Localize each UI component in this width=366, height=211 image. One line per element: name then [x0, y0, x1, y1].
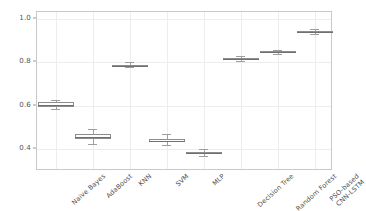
x-axis-tick-label: Naive Bayes: [70, 173, 107, 207]
box-plot-random-forest: [258, 12, 298, 171]
x-axis: Naive BayesAdaBoostKNNSVMMLPDecision Tre…: [0, 170, 342, 210]
cap-lower: [162, 145, 171, 146]
plot-area: [36, 11, 332, 170]
box-plot-naive-bayes: [36, 12, 76, 171]
cap-lower: [88, 144, 97, 145]
y-axis-tick-label: 0.8: [19, 57, 31, 65]
box-plot-svm: [147, 12, 187, 171]
box-plot-adaboost: [73, 12, 113, 171]
median-line: [75, 137, 111, 138]
box-plot-mlp: [184, 12, 224, 171]
box-plot-pso-based-cnn-lstm: [295, 12, 335, 171]
cap-lower: [310, 34, 319, 35]
median-line: [38, 105, 74, 106]
x-axis-tick-label: AdaBoost: [105, 173, 134, 200]
x-axis-tick-label-line1: AdaBoost: [104, 172, 133, 200]
cap-lower: [273, 54, 282, 55]
x-axis-tick-label: KNN: [137, 173, 153, 188]
median-line: [149, 141, 185, 142]
box-plot-decision-tree: [221, 12, 261, 171]
cap-lower: [125, 67, 134, 68]
y-axis-tick-label: 0.4: [19, 144, 31, 152]
cap-upper: [236, 56, 245, 57]
x-axis-tick-label-line1: KNN: [137, 172, 153, 188]
y-axis-tick-label: 0.6: [19, 101, 31, 109]
x-axis-tick-label-line1: Decision Tree: [256, 172, 295, 209]
median-line: [186, 153, 222, 154]
x-axis-tick-label-line1: SVM: [174, 172, 190, 188]
x-axis-tick-label-line1: MLP: [210, 172, 226, 187]
cap-lower: [236, 61, 245, 62]
cap-upper: [88, 129, 97, 130]
x-axis-tick-label: Decision Tree: [256, 173, 295, 209]
y-axis-tick-label: 1.0: [19, 14, 31, 22]
x-axis-tick-label-line1: Naive Bayes: [70, 172, 107, 206]
cap-upper: [51, 100, 60, 101]
cap-upper: [199, 149, 208, 150]
cap-upper: [125, 62, 134, 63]
median-line: [112, 66, 148, 67]
box-plot-knn: [110, 12, 150, 171]
median-line: [297, 32, 333, 33]
cap-lower: [51, 109, 60, 110]
x-axis-tick-label: MLP: [211, 173, 226, 188]
median-line: [260, 52, 296, 53]
cap-upper: [162, 134, 171, 135]
x-axis-tick-label: SVM: [174, 173, 190, 189]
cap-lower: [199, 156, 208, 157]
median-line: [223, 59, 259, 60]
